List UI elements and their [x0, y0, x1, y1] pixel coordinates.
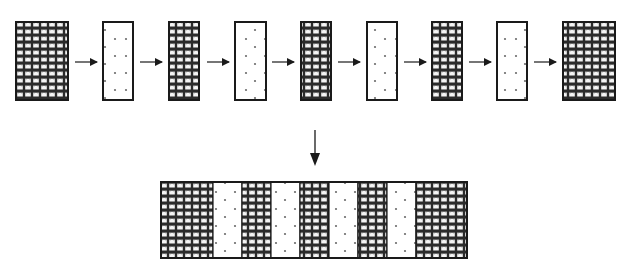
dotted-layer-2 — [103, 22, 133, 100]
strip-segment-1-pattern — [161, 182, 213, 258]
patterned-layer-3 — [169, 22, 199, 100]
diagram-canvas — [0, 0, 624, 270]
strip-segment-7-pattern — [358, 182, 387, 258]
strip-segment-3-pattern — [242, 182, 271, 258]
strip-segment-6-dots — [329, 182, 358, 258]
patterned-layer-9 — [563, 22, 615, 100]
strip-segment-9-pattern — [416, 182, 467, 258]
strip-segment-4-dots — [271, 182, 300, 258]
patterned-layer-1 — [16, 22, 68, 100]
patterned-layer-7 — [432, 22, 462, 100]
combined-strip — [161, 182, 467, 258]
down-arrow-icon — [310, 130, 320, 166]
down-arrow-head — [310, 153, 320, 166]
dotted-layer-4 — [235, 22, 266, 100]
dotted-layer-8 — [497, 22, 527, 100]
strip-segment-8-dots — [387, 182, 416, 258]
strip-segment-2-dots — [213, 182, 242, 258]
patterned-layer-5 — [301, 22, 331, 100]
top-row-layers — [16, 22, 615, 100]
dotted-layer-6 — [367, 22, 397, 100]
strip-segment-5-pattern — [300, 182, 329, 258]
